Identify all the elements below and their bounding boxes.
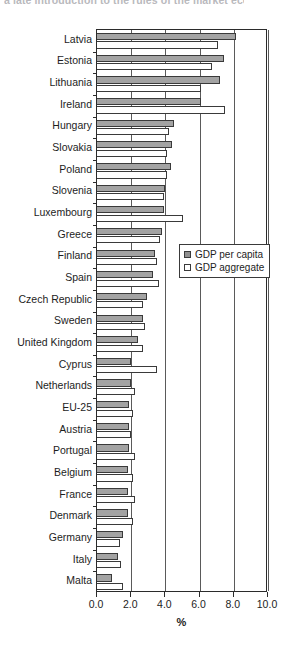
x-axis-tick: [199, 592, 200, 597]
y-axis-label-estonia: Estonia: [0, 55, 92, 66]
legend-item-gdp-per-capita: GDP per capita: [184, 248, 264, 261]
bar-gdp-aggregate: [97, 193, 164, 200]
y-axis-label-italy: Italy: [0, 554, 92, 565]
bar-gdp-per-capita: [97, 185, 165, 192]
bar-gdp-per-capita: [97, 358, 131, 365]
bar-gdp-aggregate: [97, 410, 133, 417]
y-axis-tick: [93, 376, 97, 377]
bar-gdp-per-capita: [97, 228, 162, 235]
bar-group: [97, 528, 266, 550]
bar-group: [97, 376, 266, 398]
y-axis-label-greece: Greece: [0, 229, 92, 240]
y-axis-label-latvia: Latvia: [0, 34, 92, 45]
bar-group: [97, 203, 266, 225]
bar-group: [97, 30, 266, 52]
bar-gdp-per-capita: [97, 336, 138, 343]
y-axis-label-france: France: [0, 489, 92, 500]
bar-gdp-aggregate: [97, 561, 121, 568]
bar-gdp-per-capita: [97, 163, 171, 170]
y-axis-label-finland: Finland: [0, 250, 92, 261]
legend-item-gdp-aggregate: GDP aggregate: [184, 261, 264, 274]
bar-gdp-per-capita: [97, 488, 128, 495]
bar-group: [97, 138, 266, 160]
bar-group: [97, 117, 266, 139]
bar-gdp-per-capita: [97, 271, 153, 278]
bar-group: [97, 333, 266, 355]
bar-group: [97, 550, 266, 572]
legend-label: GDP aggregate: [195, 262, 264, 273]
y-axis-label-portugal: Portugal: [0, 445, 92, 456]
bar-gdp-per-capita: [97, 553, 118, 560]
y-axis-tick: [93, 333, 97, 334]
y-axis-tick: [93, 441, 97, 442]
bar-gdp-aggregate: [97, 453, 135, 460]
y-axis-tick: [93, 463, 97, 464]
bar-group: [97, 506, 266, 528]
y-axis-label-spain: Spain: [0, 272, 92, 283]
y-axis-tick: [93, 550, 97, 551]
bar-group: [97, 312, 266, 334]
x-axis-tick: [164, 592, 165, 597]
y-axis-tick: [93, 268, 97, 269]
chart-legend: GDP per capita GDP aggregate: [179, 244, 270, 278]
y-axis-label-hungary: Hungary: [0, 120, 92, 131]
bar-gdp-aggregate: [97, 106, 225, 113]
bar-gdp-per-capita: [97, 55, 224, 62]
y-axis-tick: [93, 138, 97, 139]
y-axis-label-lithuania: Lithuania: [0, 77, 92, 88]
bar-gdp-per-capita: [97, 509, 128, 516]
y-axis-labels: LatviaEstoniaLithuaniaIrelandHungarySlov…: [0, 29, 92, 592]
bar-gdp-per-capita: [97, 250, 155, 257]
y-axis-tick: [93, 160, 97, 161]
y-axis-tick: [93, 73, 97, 74]
bar-gdp-aggregate: [97, 215, 183, 222]
x-axis-tick-label: 10.0: [247, 598, 287, 610]
bar-gdp-per-capita: [97, 98, 201, 105]
bar-gdp-aggregate: [97, 171, 167, 178]
y-axis-tick: [93, 117, 97, 118]
x-axis-tick: [96, 592, 97, 597]
caption-fragment-text: a late introduction to the rules of the …: [4, 0, 244, 5]
y-axis-tick: [93, 247, 97, 248]
bar-group: [97, 290, 266, 312]
filled-gray-square-icon: [184, 251, 191, 258]
bar-gdp-per-capita: [97, 401, 129, 408]
bar-group: [97, 441, 266, 463]
bar-gdp-per-capita: [97, 531, 123, 538]
y-axis-label-belgium: Belgium: [0, 467, 92, 478]
bar-gdp-aggregate: [97, 583, 123, 590]
bar-group: [97, 398, 266, 420]
gridline: [268, 30, 269, 591]
bar-gdp-aggregate: [97, 236, 160, 243]
bar-gdp-per-capita: [97, 33, 236, 40]
bar-gdp-aggregate: [97, 63, 212, 70]
plot-area: [96, 29, 267, 592]
bar-group: [97, 463, 266, 485]
y-axis-tick: [93, 398, 97, 399]
x-axis-tick: [233, 592, 234, 597]
y-axis-tick: [93, 203, 97, 204]
y-axis-label-poland: Poland: [0, 164, 92, 175]
bar-gdp-per-capita: [97, 206, 164, 213]
bar-gdp-aggregate: [97, 323, 145, 330]
y-axis-label-germany: Germany: [0, 532, 92, 543]
bar-gdp-per-capita: [97, 574, 112, 581]
y-axis-tick: [93, 52, 97, 53]
y-axis-tick: [93, 225, 97, 226]
bar-gdp-per-capita: [97, 315, 143, 322]
bar-group: [97, 355, 266, 377]
bar-gdp-per-capita: [97, 120, 174, 127]
y-axis-tick: [93, 290, 97, 291]
bar-group: [97, 95, 266, 117]
y-axis-tick: [93, 355, 97, 356]
bar-group: [97, 420, 266, 442]
bar-gdp-aggregate: [97, 388, 135, 395]
bar-gdp-per-capita: [97, 293, 147, 300]
legend-label: GDP per capita: [195, 249, 263, 260]
bar-gdp-per-capita: [97, 141, 172, 148]
y-axis-label-ireland: Ireland: [0, 99, 92, 110]
bar-gdp-per-capita: [97, 76, 220, 83]
bar-gdp-per-capita: [97, 423, 129, 430]
bar-gdp-aggregate: [97, 41, 218, 48]
y-axis-label-luxembourg: Luxembourg: [0, 207, 92, 218]
